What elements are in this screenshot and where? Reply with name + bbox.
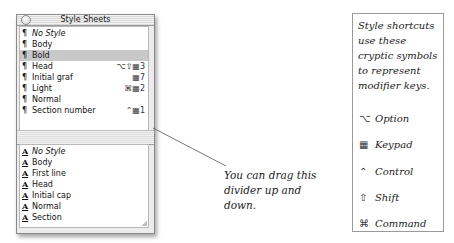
legend-item-shift: ⇧Shift [359, 191, 399, 205]
control-icon: ⌃ [359, 165, 375, 179]
keypad-icon: ▦ [359, 138, 375, 152]
legend-item-command: ⌘Command [359, 217, 426, 231]
legend-intro-text: Style shortcuts use these cryptic symbol… [358, 18, 442, 93]
legend-item-control: ⌃Control [359, 165, 413, 179]
command-icon: ⌘ [359, 217, 375, 231]
divider-callout-text: You can drag this divider up and down. [224, 168, 334, 213]
legend-item-option: ⌥Option [359, 112, 409, 126]
legend-label: Command [375, 218, 426, 229]
legend-item-keypad: ▦Keypad [359, 138, 413, 152]
option-icon: ⌥ [359, 112, 375, 126]
shift-icon: ⇧ [359, 191, 375, 205]
legend-label: Option [375, 113, 409, 124]
modifier-key-legend: Style shortcuts use these cryptic symbol… [352, 13, 444, 232]
legend-label: Keypad [375, 139, 413, 150]
legend-label: Shift [375, 192, 399, 203]
legend-label: Control [375, 166, 413, 177]
